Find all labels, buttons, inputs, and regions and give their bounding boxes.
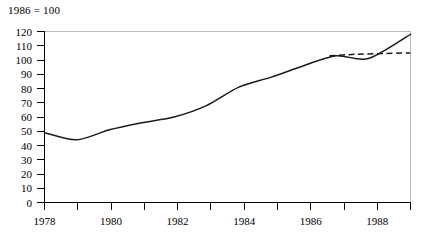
y-tick-label: 70 [21, 97, 33, 109]
chart-container: 1986 = 100 120 110 100 90 [0, 0, 427, 239]
y-tick-label: 10 [21, 182, 33, 194]
y-axis-labels: 120 110 100 90 80 70 60 50 40 30 20 10 0 [16, 26, 33, 209]
y-tick-label: 20 [21, 168, 33, 180]
y-tick-label: 30 [21, 154, 33, 166]
x-tick-label: 1988 [366, 215, 389, 227]
y-tick-label: 50 [21, 125, 33, 137]
line-chart-plot: 120 110 100 90 80 70 60 50 40 30 20 10 0 [0, 0, 427, 239]
y-axis-ticks [37, 32, 45, 203]
plot-frame [45, 32, 411, 203]
x-axis-ticks [45, 203, 411, 210]
y-tick-label: 110 [16, 40, 33, 52]
series-line-actual [45, 34, 411, 139]
y-tick-label: 90 [21, 68, 33, 80]
x-tick-label: 1978 [34, 215, 57, 227]
x-axis-labels: 1978 1980 1982 1984 1986 1988 [34, 215, 389, 227]
y-tick-label: 80 [21, 83, 33, 95]
y-tick-label: 0 [27, 197, 33, 209]
x-tick-label: 1984 [233, 215, 256, 227]
y-tick-label: 120 [16, 26, 33, 38]
x-tick-label: 1980 [100, 215, 123, 227]
x-tick-label: 1986 [300, 215, 323, 227]
y-tick-label: 60 [21, 111, 33, 123]
y-tick-label: 40 [21, 140, 33, 152]
series-line-trend [330, 53, 411, 56]
y-tick-label: 100 [16, 54, 33, 66]
x-tick-label: 1982 [167, 215, 189, 227]
